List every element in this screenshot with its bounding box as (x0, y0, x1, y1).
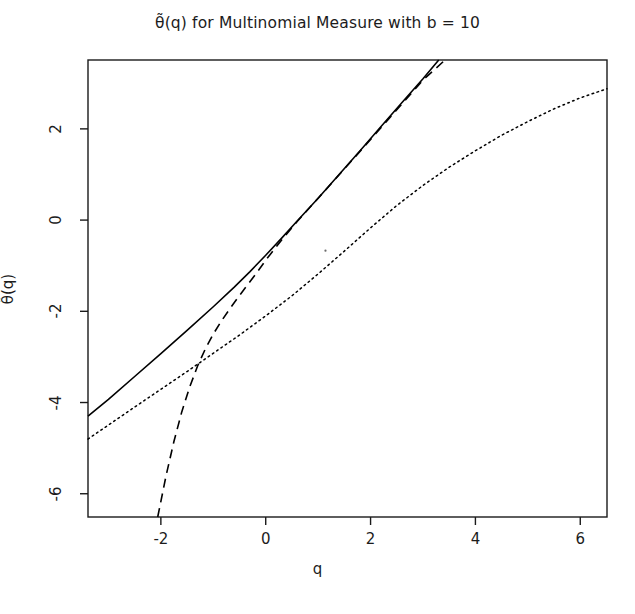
stray-dot (324, 250, 326, 252)
plot-canvas (0, 0, 635, 614)
y-tick-label: 2 (47, 124, 65, 134)
series-line-solid (88, 60, 439, 416)
data-series-group (88, 60, 607, 517)
y-tick-label: 0 (47, 215, 65, 225)
y-axis-ticks (80, 129, 88, 494)
series-line-dotted (88, 89, 607, 439)
axis-box (88, 60, 607, 517)
x-tick-label: 6 (575, 530, 585, 548)
y-tick-label: -2 (47, 304, 65, 319)
x-tick-label: 0 (261, 530, 271, 548)
y-axis-label: θ̃(q) (0, 274, 17, 304)
x-tick-label: 4 (471, 530, 481, 548)
x-axis-ticks (161, 517, 580, 525)
x-tick-label: -2 (153, 530, 168, 548)
x-tick-label: 2 (366, 530, 376, 548)
stray-mark (324, 250, 326, 252)
y-tick-label: -6 (47, 486, 65, 501)
x-axis-label: q (0, 560, 635, 578)
y-tick-label: -4 (47, 395, 65, 410)
chart-figure: θ̃(q) for Multinomial Measure with b = 1… (0, 0, 635, 614)
